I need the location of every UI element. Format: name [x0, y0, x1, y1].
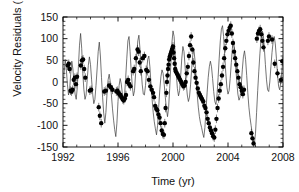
x-tick-label: 1992: [51, 151, 75, 163]
data-point: [273, 62, 277, 66]
data-point: [213, 127, 217, 131]
data-point: [147, 78, 151, 82]
data-point: [221, 65, 225, 69]
data-point: [97, 105, 101, 109]
data-point: [124, 93, 128, 97]
data-point: [190, 47, 194, 51]
data-point: [205, 117, 209, 121]
data-point: [126, 78, 130, 82]
x-tick-label: 1996: [106, 151, 130, 163]
data-point: [255, 36, 259, 40]
data-point: [207, 121, 211, 125]
data-point: [79, 63, 83, 67]
data-point: [266, 39, 270, 43]
data-point: [82, 67, 86, 71]
data-point: [134, 56, 138, 60]
x-axis-label: Time (yr): [63, 175, 283, 187]
velocity-residuals-figure: 19921996200020042008150100500-50-100-150…: [0, 0, 299, 192]
plot-canvas: 19921996200020042008150100500-50-100-150: [0, 0, 299, 192]
data-point: [203, 106, 207, 110]
data-point: [218, 88, 222, 92]
data-point: [235, 69, 239, 73]
data-point: [223, 46, 227, 50]
data-point: [158, 121, 162, 125]
data-point: [138, 60, 142, 64]
data-point: [163, 121, 167, 125]
data-point: [151, 91, 155, 95]
data-point: [270, 37, 274, 41]
data-point: [157, 115, 161, 119]
data-point: [194, 81, 198, 85]
data-point: [166, 62, 170, 66]
data-point: [187, 54, 191, 58]
data-point: [172, 62, 176, 66]
data-point: [162, 133, 166, 137]
data-point: [192, 69, 196, 73]
data-point: [136, 49, 140, 53]
data-point: [232, 49, 236, 53]
data-point: [74, 82, 78, 86]
data-point: [251, 141, 255, 145]
data-point: [233, 56, 237, 60]
data-point: [279, 78, 283, 82]
data-point: [152, 95, 156, 99]
data-point: [142, 54, 146, 58]
data-point: [145, 69, 149, 73]
data-point: [215, 106, 219, 110]
data-point: [155, 108, 159, 112]
data-point: [234, 62, 238, 66]
data-point: [241, 92, 245, 96]
data-point: [67, 67, 71, 71]
data-point: [224, 39, 228, 43]
data-point: [171, 44, 175, 48]
data-point: [132, 67, 136, 71]
y-tick-label: 100: [40, 32, 58, 44]
data-point: [171, 50, 175, 54]
data-point: [189, 34, 193, 38]
data-point: [110, 88, 114, 92]
data-point: [70, 88, 74, 92]
data-point: [219, 82, 223, 86]
data-point: [163, 106, 167, 110]
y-tick-label: -50: [43, 97, 58, 109]
data-point: [185, 71, 189, 75]
data-point: [164, 91, 168, 95]
y-tick-label: 150: [40, 11, 58, 23]
data-point: [104, 88, 108, 92]
y-axis-label-text: Velocity Residuals (m s: [11, 0, 23, 97]
data-point: [67, 62, 71, 66]
data-point: [89, 88, 93, 92]
data-point: [75, 75, 79, 79]
data-point: [166, 67, 170, 71]
data-point: [139, 69, 143, 73]
x-tick-label: 2004: [216, 151, 240, 163]
data-point: [183, 80, 187, 84]
data-point: [250, 136, 254, 140]
y-axis-label: Velocity Residuals (m s-1): [9, 0, 23, 105]
data-point: [204, 110, 208, 114]
data-point: [258, 27, 262, 31]
data-point: [193, 75, 197, 79]
y-tick-label: 50: [46, 54, 58, 66]
y-tick-label: 0: [52, 76, 58, 88]
y-tick-label: -150: [37, 141, 58, 153]
data-point: [260, 39, 264, 43]
data-point: [216, 96, 220, 100]
data-point: [81, 57, 85, 61]
data-point: [83, 75, 87, 79]
data-point: [196, 86, 200, 90]
data-point: [165, 73, 169, 77]
data-point: [128, 84, 132, 88]
data-point: [230, 31, 234, 35]
data-point: [249, 131, 253, 135]
data-point: [275, 71, 279, 75]
data-point: [236, 75, 240, 79]
data-point: [222, 56, 226, 60]
data-point: [98, 114, 102, 118]
data-point: [259, 32, 263, 36]
data-point: [231, 41, 235, 45]
data-point: [188, 43, 192, 47]
data-point: [201, 99, 205, 103]
data-point: [220, 73, 224, 77]
y-tick-label: -100: [37, 119, 58, 131]
